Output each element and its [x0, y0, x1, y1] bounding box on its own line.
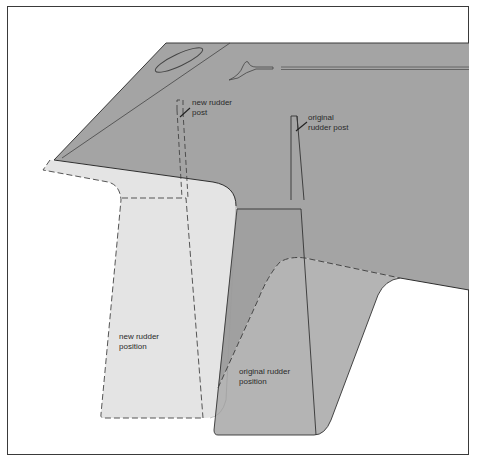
diagram-canvas: new rudder post original rudder post new…: [0, 0, 477, 465]
original-rudder-post-label: original rudder post: [308, 113, 348, 133]
original-rudder-position-label: original rudder position: [239, 367, 290, 387]
stern-diagram-svg: [0, 0, 477, 465]
new-rudder-post-label: new rudder post: [192, 98, 232, 118]
new-rudder-position-label: new rudder position: [119, 332, 159, 352]
